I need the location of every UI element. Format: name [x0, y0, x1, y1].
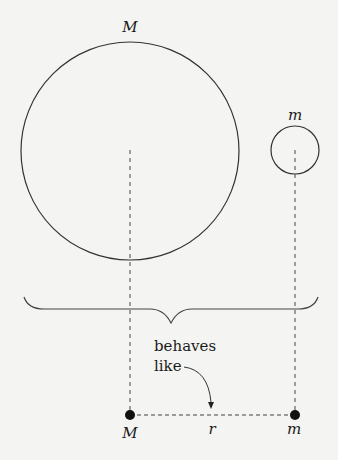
annotation-behaves: behaves: [154, 337, 216, 355]
point-mass-large-label: M: [121, 424, 138, 442]
curly-brace: [24, 297, 318, 323]
annotation-like: like: [154, 357, 182, 375]
behaves-like-arrow: [184, 367, 211, 402]
gravity-point-mass-diagram: M m behaves like M r m: [0, 0, 338, 460]
arrow-head-icon: [208, 402, 214, 409]
point-mass-small: [290, 410, 300, 420]
separation-label: r: [208, 420, 216, 438]
small-sphere-label: m: [288, 106, 302, 124]
point-mass-large: [125, 410, 135, 420]
large-sphere-label: M: [121, 18, 138, 36]
point-mass-small-label: m: [287, 420, 301, 438]
